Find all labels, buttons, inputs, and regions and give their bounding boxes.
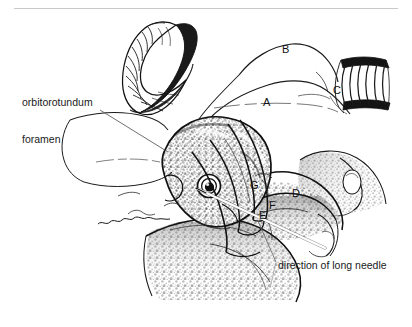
foramen-leader-line bbox=[100, 110, 168, 152]
key-letter-g: G bbox=[250, 179, 259, 192]
key-letter-f: F bbox=[269, 199, 276, 212]
key-letter-a: A bbox=[263, 96, 270, 109]
key-letter-b: B bbox=[282, 43, 289, 56]
foramen-label-line2: foramen bbox=[22, 133, 93, 145]
anatomical-figure: orbitorotundum foramen direction of long… bbox=[0, 0, 412, 327]
orbitorotundum-foramen-label: orbitorotundum foramen bbox=[22, 71, 93, 170]
key-letter-d: D bbox=[292, 187, 300, 200]
cranium-outline-group bbox=[197, 44, 350, 122]
key-letter-c: C bbox=[333, 84, 341, 97]
direction-of-long-needle-label: direction of long needle bbox=[278, 259, 387, 271]
horn-group bbox=[123, 22, 198, 115]
key-letter-e: E bbox=[259, 209, 266, 222]
foramen-label-line1: orbitorotundum bbox=[22, 96, 93, 108]
